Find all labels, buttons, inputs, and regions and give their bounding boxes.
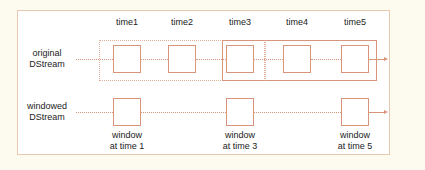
time-label-5: time5 <box>335 17 375 28</box>
row-label-original-line2: DStream <box>22 59 72 70</box>
stream-connector <box>141 112 226 113</box>
time-label-1: time1 <box>107 17 147 28</box>
window-label-time5-line2: at time 5 <box>325 141 385 152</box>
window-box-time1 <box>113 98 141 126</box>
row-label-original: original DStream <box>22 48 72 70</box>
window-outline-divider <box>265 40 266 81</box>
row-label-original-line1: original <box>22 48 72 59</box>
time-label-3: time3 <box>220 17 260 28</box>
window-label-time5-line1: window <box>325 130 385 141</box>
stream-connector <box>76 59 113 60</box>
window-label-time1-line1: window <box>97 130 157 141</box>
rdd-box-time3 <box>226 45 254 73</box>
rdd-box-time5 <box>341 45 369 73</box>
row-label-windowed-line1: windowed <box>22 101 72 112</box>
stream-connector <box>196 59 226 60</box>
window-label-time5: window at time 5 <box>325 130 385 152</box>
row-label-windowed-line2: DStream <box>22 112 72 123</box>
stream-connector <box>76 112 113 113</box>
arrow-right-icon <box>384 57 388 61</box>
stream-connector <box>141 59 168 60</box>
window-box-time5 <box>341 98 369 126</box>
window-box-time3 <box>226 98 254 126</box>
stream-connector <box>254 112 341 113</box>
window-label-time1: window at time 1 <box>97 130 157 152</box>
stream-connector <box>311 59 341 60</box>
window-label-time3-line2: at time 3 <box>210 141 270 152</box>
stream-connector-end <box>369 112 385 113</box>
arrow-right-icon <box>384 110 388 114</box>
rdd-box-time4 <box>283 45 311 73</box>
rdd-box-time2 <box>168 45 196 73</box>
window-label-time1-line2: at time 1 <box>97 141 157 152</box>
rdd-box-time1 <box>113 45 141 73</box>
row-label-windowed: windowed DStream <box>22 101 72 123</box>
time-label-2: time2 <box>162 17 202 28</box>
window-label-time3: window at time 3 <box>210 130 270 152</box>
stream-connector <box>254 59 283 60</box>
window-label-time3-line1: window <box>210 130 270 141</box>
time-label-4: time4 <box>277 17 317 28</box>
stream-connector-end <box>369 59 385 60</box>
